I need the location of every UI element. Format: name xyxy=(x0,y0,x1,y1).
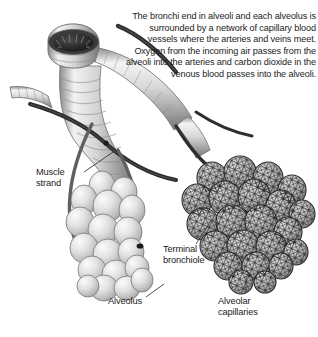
figure-caption: The bronchi end in alveoli and each alve… xyxy=(118,11,316,81)
alveolar-pore xyxy=(137,243,144,248)
label-alveolus: Alveolus xyxy=(108,296,164,307)
label-muscle-strand: Muscle strand xyxy=(36,167,92,190)
label-terminal-bronchiole: Terminal bronchiole xyxy=(163,244,225,267)
vessel-node-left xyxy=(103,140,108,145)
illustration-figure: The bronchi end in alveoli and each alve… xyxy=(0,0,318,337)
label-alveolar-capillaries: Alveolar capillaries xyxy=(218,296,284,319)
